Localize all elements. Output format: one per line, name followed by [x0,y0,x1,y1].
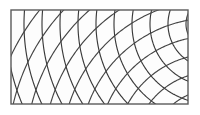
curvilinear-lattice-figure [0,0,200,115]
figure-root [0,0,200,115]
